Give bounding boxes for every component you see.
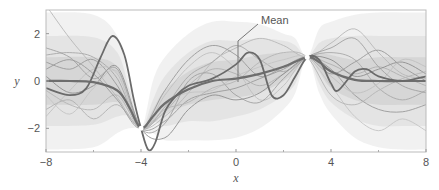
- y-tick-label: 2: [34, 28, 40, 40]
- x-tick-label: 8: [423, 156, 429, 168]
- x-tick-label: −8: [40, 156, 53, 168]
- y-tick-label: 0: [34, 75, 40, 87]
- x-tick-label: 0: [233, 156, 239, 168]
- observation-point: [305, 55, 310, 60]
- x-tick-label: −4: [135, 156, 148, 168]
- y-axis-label: y: [13, 74, 20, 88]
- x-tick-label: 4: [328, 156, 334, 168]
- x-axis-label: x: [232, 171, 239, 185]
- observation-point: [139, 126, 144, 131]
- y-tick-label: −2: [27, 122, 40, 134]
- mean-annotation-label: Mean: [261, 14, 289, 26]
- gp-posterior-chart: −8−4048 20−2 x y Mean: [0, 0, 439, 190]
